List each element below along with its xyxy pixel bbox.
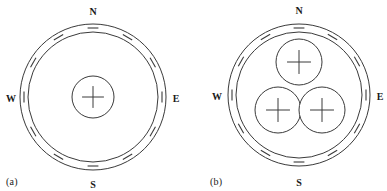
negative-charge-minus-icon <box>354 57 359 66</box>
negative-charge-minus-icon <box>54 154 63 159</box>
conductor-group <box>72 76 114 118</box>
panel-caption-b: (b) <box>210 176 222 187</box>
conductor <box>255 87 301 133</box>
direction-label-s: S <box>90 179 96 190</box>
negative-charge-minus-icon <box>354 124 359 133</box>
negative-charge-minus-icon <box>150 58 155 67</box>
negative-charge-minus-icon <box>31 127 36 136</box>
direction-label-s: S <box>296 177 302 188</box>
direction-label-n: N <box>295 5 303 16</box>
conductor <box>299 87 345 133</box>
direction-label-w: W <box>6 93 16 104</box>
diagram-panel-a: NESW (a) <box>0 0 193 191</box>
direction-label-group: NESW <box>212 5 384 188</box>
negative-charge-minus-icon <box>328 150 337 155</box>
direction-label-n: N <box>89 6 97 17</box>
figure-root: NESW (a) NESW (b) <box>0 0 387 191</box>
negative-charge-minus-icon <box>150 127 155 136</box>
diagram-a-canvas: NESW <box>0 0 193 191</box>
direction-label-e: E <box>377 91 384 102</box>
negative-charge-minus-icon <box>261 150 270 155</box>
negative-charge-minus-icon <box>238 124 243 133</box>
direction-label-e: E <box>173 93 180 104</box>
negative-charge-minus-icon <box>328 34 337 39</box>
diagram-b-canvas: NESW <box>193 0 386 191</box>
conductor <box>72 76 114 118</box>
negative-charge-minus-icon <box>123 154 132 159</box>
negative-charge-minus-icon <box>31 58 36 67</box>
conductor-group <box>255 39 345 133</box>
negative-charge-minus-icon <box>123 35 132 40</box>
negative-charge-minus-icon <box>54 35 63 40</box>
diagram-panel-b: NESW (b) <box>193 0 386 191</box>
direction-label-w: W <box>212 91 222 102</box>
panel-caption-a: (a) <box>6 176 18 187</box>
negative-charge-minus-icon <box>238 57 243 66</box>
conductor <box>276 39 322 85</box>
negative-charge-minus-icon <box>261 34 270 39</box>
